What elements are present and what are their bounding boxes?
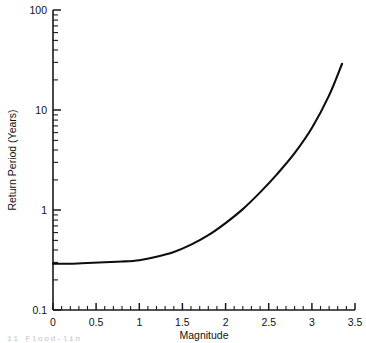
- x-axis-ticks: [53, 303, 355, 310]
- return-period-chart: 100 10 1 0.1 0 0.5 1 1.5 2 2.5 3 3.5 Mag…: [0, 0, 366, 343]
- y-tick-labels: 100 10 1 0.1: [29, 4, 47, 316]
- y-axis-ticks: [53, 10, 61, 310]
- x-tick-label: 1.5: [175, 316, 190, 328]
- x-tick-label: 3: [309, 316, 315, 328]
- x-tick-label: 2.5: [261, 316, 276, 328]
- y-axis-title: Return Period (Years): [6, 109, 18, 210]
- x-tick-labels: 0 0.5 1 1.5 2 2.5 3 3.5: [50, 316, 362, 328]
- x-tick-label: 0.5: [89, 316, 104, 328]
- x-tick-label: 2: [223, 316, 229, 328]
- chart-figure: 100 10 1 0.1 0 0.5 1 1.5 2 2.5 3 3.5 Mag…: [0, 0, 366, 343]
- x-tick-label: 3.5: [348, 316, 363, 328]
- axes-group: [53, 10, 355, 310]
- y-tick-label: 1: [41, 204, 47, 216]
- x-axis-title: Magnitude: [179, 329, 228, 341]
- data-series-line: [53, 64, 342, 264]
- y-tick-label: 100: [29, 4, 47, 16]
- x-tick-label: 1: [136, 316, 142, 328]
- y-tick-label: 0.1: [32, 304, 47, 316]
- y-tick-label: 10: [35, 104, 47, 116]
- x-tick-label: 0: [50, 316, 56, 328]
- caption-fragment: 11 Flood-lin: [7, 334, 81, 343]
